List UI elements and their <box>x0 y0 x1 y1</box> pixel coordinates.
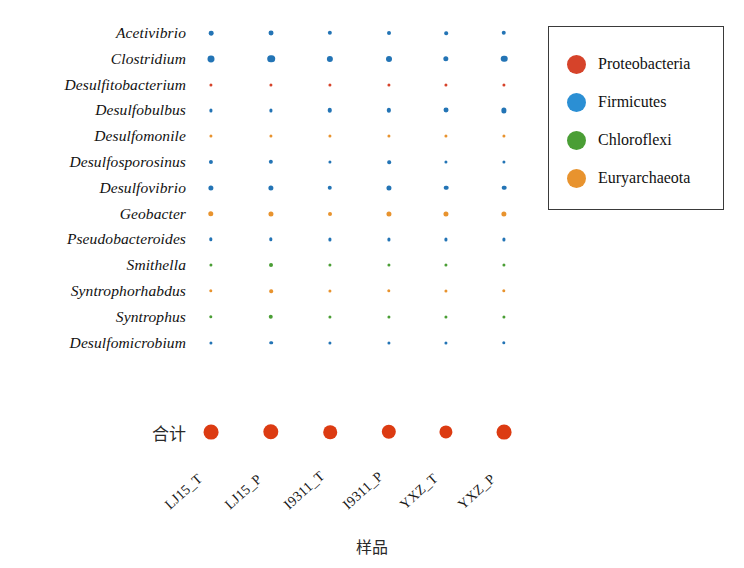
x-tick-label-i9311_t: I9311_T <box>281 468 328 513</box>
row-label-desulfomonile: Desulfomonile <box>94 127 186 145</box>
bubble-desulfosporosinus-i9311_t <box>328 160 331 163</box>
bubble-syntrophus-lj15_p <box>269 315 273 319</box>
row-label-desulfosporosinus: Desulfosporosinus <box>69 153 186 171</box>
bubble-syntrophus-yxz_p <box>502 315 505 318</box>
legend-swatch-icon <box>567 55 586 74</box>
bubble-desulfitobacterium-lj15_t <box>209 83 212 86</box>
x-axis-title: 样品 <box>0 534 744 558</box>
bubble-syntrophorhabdus-i9311_p <box>387 289 390 292</box>
bubble-pseudobacteroides-i9311_t <box>328 238 331 241</box>
bubble-desulfovibrio-i9311_p <box>386 185 391 190</box>
bubble-desulfovibrio-i9311_t <box>328 186 332 190</box>
legend-entry-euryarchaeota[interactable]: Euryarchaeota <box>567 159 723 197</box>
bubble-desulfomonile-i9311_t <box>328 135 331 138</box>
legend-entry-proteobacteria[interactable]: Proteobacteria <box>567 45 723 83</box>
bubble-smithella-i9311_p <box>387 264 390 267</box>
bubble-合计-i9311_p <box>382 425 396 439</box>
bubble-合计-yxz_p <box>497 425 512 440</box>
bubble-syntrophus-i9311_t <box>328 315 331 318</box>
bubble-desulfobulbus-i9311_t <box>328 108 332 112</box>
bubble-合计-i9311_t <box>323 425 337 439</box>
legend-entry-chloroflexi[interactable]: Chloroflexi <box>567 121 723 159</box>
bubble-desulfovibrio-yxz_p <box>502 185 507 190</box>
bubble-desulfitobacterium-i9311_p <box>387 83 390 86</box>
bubble-desulfosporosinus-lj15_p <box>269 160 273 164</box>
bubble-smithella-yxz_p <box>502 264 505 267</box>
bubble-desulfovibrio-yxz_t <box>444 185 449 190</box>
row-label-syntrophorhabdus: Syntrophorhabdus <box>71 282 186 300</box>
bubble-syntrophus-i9311_p <box>387 315 390 318</box>
bubble-syntrophorhabdus-yxz_t <box>444 289 447 292</box>
row-label-desulfovibrio: Desulfovibrio <box>99 179 186 197</box>
bubble-desulfovibrio-lj15_t <box>208 185 213 190</box>
bubble-smithella-yxz_t <box>444 264 447 267</box>
row-label-pseudobacteroides: Pseudobacteroides <box>67 230 186 248</box>
bubble-desulfomicrobium-yxz_p <box>502 341 505 344</box>
x-tick-label-yxz_p: YXZ_P <box>455 471 499 513</box>
row-label-column: AcetivibrioClostridiumDesulfitobacterium… <box>0 0 186 568</box>
bubble-clostridium-lj15_p <box>267 55 275 63</box>
legend-entry-firmicutes[interactable]: Firmicutes <box>567 83 723 121</box>
bubble-geobacter-i9311_t <box>328 212 332 216</box>
bubble-syntrophus-yxz_t <box>444 315 447 318</box>
bubble-pseudobacteroides-lj15_p <box>269 238 272 241</box>
row-label-acetivibrio: Acetivibrio <box>116 24 186 42</box>
bubble-smithella-lj15_p <box>269 263 273 267</box>
bubble-desulfomicrobium-i9311_p <box>387 341 390 344</box>
bubble-desulfobulbus-i9311_p <box>387 108 391 112</box>
bubble-合计-lj15_t <box>204 425 219 440</box>
bubble-clostridium-i9311_t <box>327 56 333 62</box>
bubble-desulfitobacterium-yxz_t <box>444 83 447 86</box>
bubble-smithella-i9311_t <box>328 264 331 267</box>
bubble-chart: AcetivibrioClostridiumDesulfitobacterium… <box>0 0 744 568</box>
bubble-syntrophus-lj15_t <box>209 315 212 318</box>
bubble-desulfosporosinus-yxz_p <box>502 160 505 163</box>
bubble-合计-lj15_p <box>263 424 278 439</box>
bubble-acetivibrio-lj15_t <box>209 31 214 36</box>
row-label-total: 合计 <box>152 420 186 445</box>
bubble-desulfomicrobium-yxz_t <box>444 341 447 344</box>
bubble-desulfovibrio-lj15_p <box>268 185 273 190</box>
row-label-clostridium: Clostridium <box>111 50 186 68</box>
row-label-smithella: Smithella <box>127 256 186 274</box>
bubble-desulfomonile-yxz_t <box>444 135 447 138</box>
bubble-desulfobulbus-lj15_p <box>269 109 272 112</box>
bubble-clostridium-i9311_p <box>386 56 392 62</box>
bubble-acetivibrio-yxz_t <box>444 31 448 35</box>
bubble-acetivibrio-yxz_p <box>502 31 506 35</box>
legend: ProteobacteriaFirmicutesChloroflexiEurya… <box>548 26 724 210</box>
bubble-acetivibrio-i9311_p <box>387 31 391 35</box>
bubble-pseudobacteroides-yxz_p <box>502 238 505 241</box>
legend-swatch-icon <box>567 131 586 150</box>
bubble-desulfobulbus-yxz_t <box>444 108 449 113</box>
bubble-desulfomicrobium-i9311_t <box>328 341 331 344</box>
legend-label: Chloroflexi <box>598 131 672 149</box>
row-label-desulfomicrobium: Desulfomicrobium <box>70 334 186 352</box>
row-label-desulfobulbus: Desulfobulbus <box>95 101 186 119</box>
bubble-clostridium-yxz_t <box>443 56 448 61</box>
bubble-clostridium-yxz_p <box>501 56 508 63</box>
legend-label: Proteobacteria <box>598 55 690 73</box>
bubble-syntrophorhabdus-i9311_t <box>328 289 331 292</box>
bubble-desulfomonile-i9311_p <box>387 135 390 138</box>
bubble-clostridium-lj15_t <box>208 55 215 62</box>
bubble-desulfobulbus-yxz_p <box>501 108 506 113</box>
bubble-desulfosporosinus-yxz_t <box>444 160 447 163</box>
bubble-desulfomonile-lj15_t <box>209 135 212 138</box>
bubble-desulfitobacterium-lj15_p <box>269 83 272 86</box>
bubble-geobacter-lj15_p <box>268 211 273 216</box>
bubble-合计-yxz_t <box>439 425 452 438</box>
legend-swatch-icon <box>567 93 586 112</box>
bubble-desulfitobacterium-i9311_t <box>328 83 331 86</box>
x-tick-label-lj15_p: LJ15_P <box>222 472 265 513</box>
bubble-geobacter-i9311_p <box>386 211 391 216</box>
bubble-pseudobacteroides-yxz_t <box>444 238 447 241</box>
bubble-syntrophorhabdus-lj15_t <box>209 289 212 292</box>
legend-swatch-icon <box>567 169 586 188</box>
bubble-desulfomonile-lj15_p <box>269 135 272 138</box>
row-label-geobacter: Geobacter <box>120 205 186 223</box>
x-tick-label-i9311_p: I9311_P <box>340 469 387 513</box>
bubble-desulfomonile-yxz_p <box>502 135 505 138</box>
bubble-smithella-lj15_t <box>209 264 212 267</box>
x-tick-label-yxz_t: YXZ_T <box>397 471 441 513</box>
